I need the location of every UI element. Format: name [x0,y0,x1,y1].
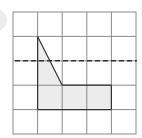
grid [13,12,136,134]
diagram-canvas [0,0,142,138]
shaded-shape [38,36,112,109]
partial-circle-decoration [0,9,7,31]
